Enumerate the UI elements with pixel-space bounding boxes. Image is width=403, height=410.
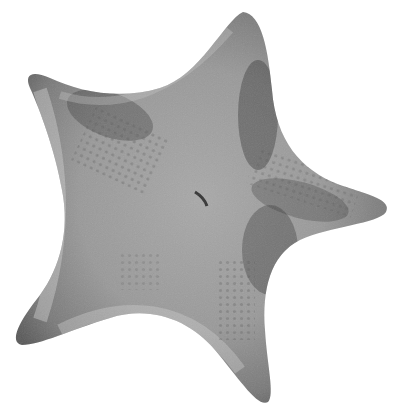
starfish-icon <box>0 0 403 410</box>
starfish-body <box>0 0 403 410</box>
caption-text <box>2 398 242 410</box>
starfish-illustration <box>0 0 403 410</box>
